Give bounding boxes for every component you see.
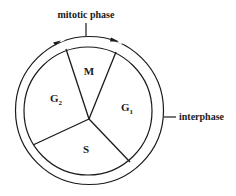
interphase-label: interphase — [179, 111, 225, 122]
segment-g1-subscript: 1 — [130, 108, 134, 116]
arrow-head-right-icon — [110, 38, 119, 42]
segment-s-text: S — [83, 143, 89, 155]
segment-label-s: S — [83, 143, 89, 155]
mitotic-phase-label: mitotic phase — [58, 9, 116, 20]
segment-g2-subscript: 2 — [59, 99, 63, 107]
segment-m-text: M — [84, 65, 95, 77]
diagram-svg: mitotic phase interphase M G1 S G2 — [0, 0, 236, 196]
cell-cycle-diagram: mitotic phase interphase M G1 S G2 — [0, 0, 236, 196]
segment-label-m: M — [84, 65, 95, 77]
